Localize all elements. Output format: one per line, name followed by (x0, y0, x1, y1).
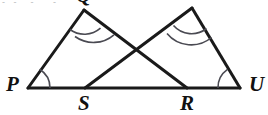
triangle-edges (28, 8, 240, 88)
vertex-label-R: R (180, 93, 194, 114)
angle-arc-at-U (218, 70, 227, 88)
vertex-label-S: S (78, 93, 90, 114)
vertex-label-P: P (6, 74, 19, 95)
side-S-T-segment (85, 8, 192, 88)
vertex-label-T: T (186, 0, 199, 4)
angle-arc-at-Q (70, 28, 114, 42)
vertex-label-U: U (249, 74, 264, 95)
geometry-figure-canvas: - - - - P S R U Q T (0, 0, 268, 115)
triangles-svg (0, 0, 268, 115)
vertex-label-Q: Q (76, 0, 91, 6)
side-P-Q-segment (28, 10, 84, 88)
side-T-U-segment (192, 8, 240, 88)
